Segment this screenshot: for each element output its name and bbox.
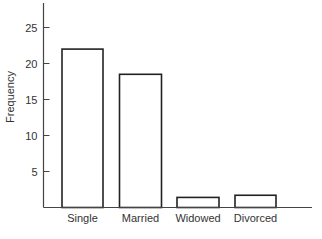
y-tick-label: 25 (25, 22, 37, 34)
x-category-label: Widowed (175, 212, 220, 224)
y-tick-label: 5 (31, 166, 37, 178)
x-category-label: Single (67, 212, 98, 224)
bar-married (120, 74, 162, 207)
bar-widowed (177, 197, 219, 207)
x-axis-labels: SingleMarriedWidowedDivorced (67, 212, 277, 224)
bars (62, 49, 276, 207)
bar-chart: 510152025 SingleMarriedWidowedDivorced F… (0, 0, 322, 239)
x-category-label: Married (122, 212, 159, 224)
y-axis-ticks: 510152025 (25, 22, 49, 178)
y-tick-label: 20 (25, 58, 37, 70)
y-axis-title: Frequency (4, 71, 16, 123)
bar-single (62, 49, 103, 207)
y-tick-label: 10 (25, 130, 37, 142)
x-category-label: Divorced (234, 212, 277, 224)
y-tick-label: 15 (25, 94, 37, 106)
bar-divorced (235, 195, 276, 207)
